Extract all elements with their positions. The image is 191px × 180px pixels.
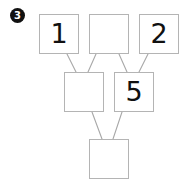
edge-middle-left-to-bottom bbox=[92, 112, 102, 139]
edge-top-middle-to-middle-left bbox=[88, 54, 96, 72]
node-value: 5 bbox=[125, 78, 142, 105]
edge-top-left-to-middle-left bbox=[67, 54, 76, 72]
diagram-node-bottom[interactable] bbox=[89, 139, 129, 179]
diagram-node-top-middle[interactable] bbox=[89, 14, 129, 54]
edge-top-right-to-middle-right bbox=[139, 54, 148, 72]
diagram-node-middle-right[interactable]: 5 bbox=[114, 72, 154, 112]
exercise-diagram-canvas: 3 1 2 5 bbox=[0, 0, 191, 180]
node-value: 1 bbox=[50, 20, 67, 47]
diagram-node-top-left[interactable]: 1 bbox=[39, 14, 79, 54]
edge-top-middle-to-middle-right bbox=[119, 54, 127, 72]
diagram-node-middle-left[interactable] bbox=[64, 72, 104, 112]
exercise-number-badge-icon: 3 bbox=[10, 8, 25, 23]
diagram-node-top-right[interactable]: 2 bbox=[139, 14, 179, 54]
edge-middle-right-to-bottom bbox=[113, 112, 122, 139]
node-value: 2 bbox=[150, 20, 167, 47]
